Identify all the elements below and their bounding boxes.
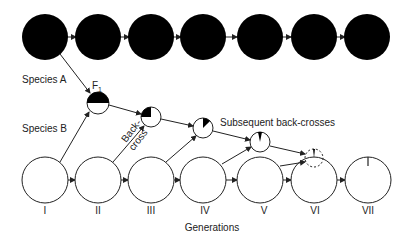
generations-axis-title: Generations <box>185 222 239 233</box>
species-a-circle <box>237 14 283 60</box>
generation-labels: I II III IV V VI VII <box>44 205 375 216</box>
generation-label: VII <box>362 205 374 216</box>
species-b-circle <box>180 157 226 203</box>
species-b-circle <box>237 157 283 203</box>
f1-label: F1 <box>92 80 102 93</box>
hybridization-backcross-diagram: Species A Species B F1 Back- cross Subse… <box>0 0 417 239</box>
generation-label: III <box>147 205 155 216</box>
species-b-row <box>22 157 391 203</box>
species-b-circle <box>128 157 174 203</box>
hybrid-gen-iii <box>141 107 161 127</box>
species-b-circle <box>22 157 68 203</box>
species-a-label: Species A <box>22 74 67 85</box>
species-b-circle <box>291 157 337 203</box>
subsequent-backcrosses-label: Subsequent back-crosses <box>220 117 335 128</box>
species-a-circle <box>75 14 121 60</box>
species-b-circle <box>75 157 121 203</box>
species-a-circle <box>22 14 68 60</box>
species-a-circle <box>180 14 226 60</box>
f1-subscript: 1 <box>98 86 102 93</box>
species-a-row <box>22 14 390 60</box>
hybrid-f1 <box>87 92 109 114</box>
generation-label: VI <box>310 205 319 216</box>
species-a-circle <box>344 14 390 60</box>
species-a-circle <box>291 14 337 60</box>
hybrid-gen-v <box>250 132 270 152</box>
generation-label: II <box>95 205 101 216</box>
generation-label: V <box>261 205 268 216</box>
generation-label: IV <box>200 205 210 216</box>
hybrid-gen-iv <box>193 118 213 138</box>
species-b-label: Species B <box>22 123 67 134</box>
generation-label: I <box>44 205 47 216</box>
species-a-circle <box>128 14 174 60</box>
